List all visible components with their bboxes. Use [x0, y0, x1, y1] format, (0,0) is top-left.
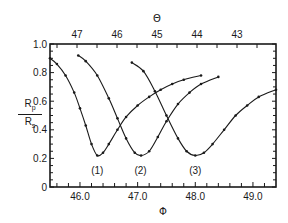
y-tick-label: 0.8: [33, 67, 47, 78]
x-tick-label: 47.0: [128, 191, 148, 202]
data-point: [165, 120, 168, 123]
data-point: [188, 91, 191, 94]
plot-frame: [50, 44, 276, 187]
data-point: [182, 78, 185, 81]
data-point: [84, 60, 87, 63]
data-point: [102, 151, 105, 154]
data-point: [246, 104, 249, 107]
y-axis-title-denominator: Rs: [18, 115, 42, 131]
x-axis-top: 4746454443: [57, 29, 257, 48]
y-axis: 00.20.40.60.81.0: [33, 39, 276, 193]
data-point: [157, 136, 160, 139]
y-tick-label: 0.2: [33, 153, 47, 164]
data-point: [217, 76, 220, 79]
series-3: [131, 61, 278, 157]
data-point: [77, 54, 80, 57]
x-tick-label: 48.0: [186, 191, 206, 202]
data-point: [116, 117, 119, 120]
data-point: [148, 96, 151, 99]
data-point: [142, 70, 145, 73]
x2-tick-label: 46: [111, 29, 123, 40]
y-axis-title-numerator: Rp: [18, 98, 42, 115]
data-point: [165, 114, 168, 117]
series-2: [77, 54, 220, 157]
data-point: [136, 104, 139, 107]
data-point: [200, 83, 203, 86]
curve-line: [50, 58, 201, 156]
data-point: [234, 114, 237, 117]
x2-tick-label: 43: [231, 29, 243, 40]
curve-labels: (1)(2)(3): [91, 165, 201, 176]
data-point: [79, 107, 82, 110]
data-point: [171, 83, 174, 86]
data-point: [116, 129, 119, 132]
curve-line: [78, 55, 218, 155]
data-point: [108, 97, 111, 100]
data-point: [159, 88, 162, 91]
data-point: [96, 74, 99, 77]
curve-label: (1): [91, 165, 103, 176]
data-series: [49, 54, 278, 157]
x2-tick-label: 45: [151, 29, 163, 40]
data-point: [177, 137, 180, 140]
reflectance-ratio-chart: 00.20.40.60.81.0 46.047.048.049.0 474645…: [0, 0, 288, 223]
curve-label: (3): [189, 165, 201, 176]
x2-axis-title: Θ: [153, 13, 161, 24]
plot-border: [50, 44, 276, 187]
data-point: [223, 129, 226, 132]
x-axis-title: Φ: [159, 206, 167, 217]
data-point: [200, 74, 203, 77]
x-tick-label: 49.0: [243, 191, 263, 202]
data-point: [73, 91, 76, 94]
curve-label: (2): [134, 165, 146, 176]
data-point: [194, 154, 197, 157]
y-tick-label: 0: [41, 182, 47, 193]
data-point: [125, 137, 128, 140]
data-point: [133, 151, 136, 154]
data-point: [131, 61, 134, 64]
x-axis-bottom: 46.047.048.049.0: [57, 182, 265, 202]
data-point: [64, 74, 67, 77]
data-point: [275, 88, 278, 91]
curve-line: [132, 63, 276, 156]
data-point: [211, 143, 214, 146]
data-point: [49, 57, 52, 60]
data-point: [125, 116, 128, 119]
data-point: [177, 103, 180, 106]
x2-tick-label: 44: [191, 29, 203, 40]
series-1: [49, 57, 203, 157]
data-point: [257, 96, 260, 99]
data-point: [185, 150, 188, 153]
data-point: [154, 90, 157, 93]
data-point: [96, 154, 99, 157]
data-point: [108, 143, 111, 146]
data-point: [84, 124, 87, 127]
data-point: [203, 151, 206, 154]
data-point: [140, 154, 143, 157]
x2-tick-label: 47: [71, 29, 83, 40]
data-point: [148, 150, 151, 153]
y-axis-title: Rp Rs: [18, 98, 42, 131]
data-point: [90, 143, 93, 146]
data-point: [56, 63, 59, 66]
y-tick-label: 1.0: [33, 39, 47, 50]
x-tick-label: 46.0: [70, 191, 90, 202]
